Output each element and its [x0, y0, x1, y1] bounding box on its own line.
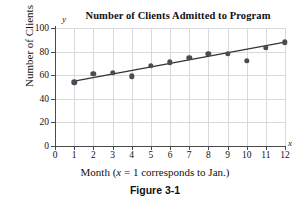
x-axis-title-text: Month (x = 1 corresponds to Jan.) — [81, 166, 230, 178]
x-axis-tick-label: 2 — [91, 150, 96, 160]
x-axis-tick-label: 1 — [72, 150, 77, 160]
y-axis-line — [55, 26, 56, 148]
x-axis-tick-label: 11 — [261, 150, 270, 160]
x-axis-tick-label: 10 — [242, 150, 252, 160]
y-axis-title: Number of Clients — [23, 0, 35, 101]
y-axis-tick-label: 100 — [35, 23, 49, 33]
y-axis-tick-label: 40 — [40, 94, 50, 104]
figure-container: Number of Clients Admitted to Program y … — [0, 0, 305, 205]
x-axis-variable-label: x — [288, 138, 292, 148]
y-axis-tick-label: 20 — [40, 117, 50, 127]
figure-caption: Figure 3-1 — [35, 184, 275, 196]
x-axis-tick-label: 6 — [168, 150, 173, 160]
y-axis-tick-label: 60 — [40, 70, 50, 80]
x-axis-tick-label: 7 — [187, 150, 192, 160]
x-axis-title: Month (x = 1 corresponds to Jan.) — [35, 166, 275, 178]
x-axis-tick-label: 9 — [225, 150, 230, 160]
x-axis-tick-label: 8 — [206, 150, 211, 160]
data-point — [282, 39, 287, 44]
x-axis-tick-label: 3 — [110, 150, 115, 160]
y-axis-tick-label: 0 — [44, 141, 49, 151]
plot-area: 0204060801000123456789101112 — [55, 28, 285, 146]
x-axis-tick-label: 5 — [148, 150, 153, 160]
x-axis-tick-label: 0 — [53, 150, 58, 160]
x-axis-tick-label: 12 — [280, 150, 290, 160]
trend-line — [55, 28, 285, 146]
gridline-vertical — [285, 28, 286, 146]
y-axis-tick-label: 80 — [40, 47, 50, 57]
y-axis-variable-label: y — [62, 14, 66, 24]
x-axis-line — [54, 146, 286, 147]
chart-title: Number of Clients Admitted to Program — [58, 10, 298, 21]
x-axis-tick-label: 4 — [129, 150, 134, 160]
